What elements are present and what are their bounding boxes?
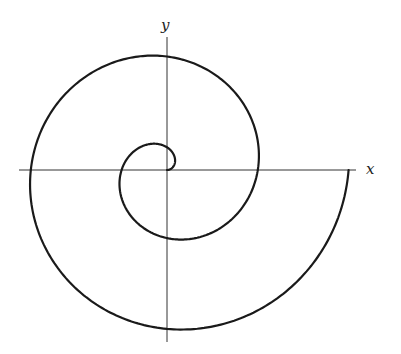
x-axis-label: x: [366, 160, 374, 178]
spiral-figure: [0, 0, 401, 354]
y-axis-label: y: [161, 16, 169, 34]
spiral-curve: [30, 56, 349, 330]
